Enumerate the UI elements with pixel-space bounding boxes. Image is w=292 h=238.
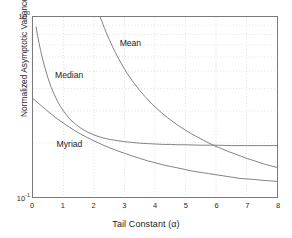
y-axis-tick-bottom: 10-1 [12, 192, 30, 203]
x-axis-tick-7: 7 [245, 201, 249, 210]
figure: 100 10-1 Normalized Asymptotic Variance … [0, 0, 292, 238]
data-curves [33, 17, 277, 197]
x-axis-title: Tail Constant (α) [0, 219, 292, 229]
x-axis-tick-1: 1 [61, 201, 65, 210]
curve-label-myriad: Myriad [57, 139, 83, 149]
x-axis-tick-6: 6 [214, 201, 218, 210]
x-axis-tick-3: 3 [122, 201, 126, 210]
curve-label-mean: Mean [120, 38, 142, 48]
plot-area [32, 16, 278, 198]
x-axis-tick-5: 5 [184, 201, 188, 210]
curve-label-median: Median [55, 70, 83, 80]
x-axis-tick-0: 0 [30, 201, 34, 210]
y-axis-title: Normalized Asymptotic Variance [19, 0, 29, 137]
x-axis-tick-8: 8 [276, 201, 280, 210]
x-axis-tick-2: 2 [91, 201, 95, 210]
x-axis-tick-4: 4 [153, 201, 157, 210]
